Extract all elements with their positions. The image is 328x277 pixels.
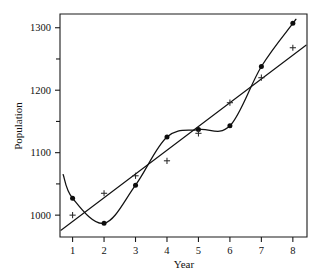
data-point-marker-dot (290, 21, 295, 26)
x-tick-label: 5 (196, 245, 201, 256)
data-point-marker-dot (133, 183, 138, 188)
x-axis-title: Year (174, 258, 195, 270)
x-tick-label: 1 (70, 245, 75, 256)
data-point-marker-dot (102, 221, 107, 226)
data-point-marker-dot (259, 64, 264, 69)
y-tick-label: 1300 (30, 22, 51, 33)
population-year-chart: 1000110012001300 12345678 Population Yea… (0, 0, 328, 277)
y-tick-label: 1000 (30, 210, 51, 221)
chart-canvas: 1000110012001300 12345678 Population Yea… (0, 0, 328, 277)
data-point-marker-dot (70, 196, 75, 201)
y-tick-label: 1100 (30, 147, 51, 158)
x-tick-label: 7 (259, 245, 264, 256)
data-point-marker-dot (227, 123, 232, 128)
data-point-marker-dot (164, 135, 169, 140)
x-tick-label: 4 (164, 245, 170, 256)
x-tick-label: 6 (227, 245, 232, 256)
x-tick-label: 2 (101, 245, 106, 256)
x-tick-label: 3 (133, 245, 138, 256)
y-tick-label: 1200 (30, 85, 51, 96)
y-axis-title: Population (12, 102, 24, 150)
x-tick-label: 8 (290, 245, 295, 256)
